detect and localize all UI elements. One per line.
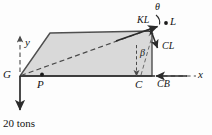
load-magnitude-label: 20 tons [3,118,35,129]
point-l-dot [164,21,168,25]
beta-angle-label: β [140,48,145,58]
y-axis-label: y [25,37,30,48]
right-angle-dot [150,32,152,34]
theta-angle-label: θ [155,2,160,12]
x-axis-label: x [198,69,203,80]
kl-force-label: KL [137,15,149,25]
point-c-label: C [135,79,142,90]
point-p-dot [40,73,44,77]
point-p-label: P [37,79,44,90]
cl-force-label: CL [162,41,174,51]
force-diagram-figure: y x G P C L KL CL CB θ β 20 tons [0,0,212,135]
point-g-label: G [3,69,11,80]
theta-angle-arc [156,15,160,25]
cb-force-label: CB [157,79,170,89]
diagram-canvas [0,0,212,135]
point-l-label: L [170,16,176,27]
